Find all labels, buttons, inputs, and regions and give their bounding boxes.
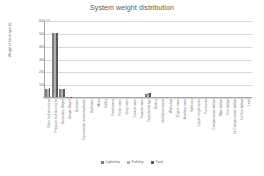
- x-axis-label-slot: Torpedo storage: [144, 99, 151, 155]
- bar-total[interactable]: [70, 97, 72, 98]
- x-axis-label-slot: Ventilation stores: [159, 99, 166, 155]
- x-axis-label-slot: Int Trim ballast: [238, 99, 245, 155]
- x-axis-label-slot: Pressure hull structures: [51, 99, 58, 155]
- bar-group[interactable]: [94, 21, 101, 97]
- x-axis-label-slot: Outer hull structures: [44, 99, 51, 155]
- x-axis-label-slot: Torpedo room: [137, 99, 144, 155]
- bar-group[interactable]: [130, 21, 137, 97]
- bar-total[interactable]: [63, 89, 65, 97]
- bar-group[interactable]: [116, 21, 123, 97]
- x-axis-label-slot: Secondary Object: [58, 99, 65, 155]
- bar-group[interactable]: [123, 21, 130, 97]
- x-axis-label-slot: Lead: [245, 99, 252, 155]
- x-axis-label-slot: Bathroom: [87, 99, 94, 155]
- x-axis-label-slot: Commander accommodation: [80, 99, 87, 155]
- chart-title: System weight distribution: [0, 4, 264, 11]
- x-axis-label-slot: Battery: [152, 99, 159, 155]
- bar-series-group: [44, 21, 252, 97]
- x-axis-label-slot: Workshop: [166, 99, 173, 155]
- x-axis-label-slot: Liquid weight tanks: [195, 99, 202, 155]
- y-axis-title: Weight of block type (t): [8, 9, 12, 71]
- bar-group[interactable]: [166, 21, 173, 97]
- legend-item[interactable]: Total: [151, 160, 163, 164]
- bar-group[interactable]: [202, 21, 209, 97]
- x-axis-label-slot: Main ballast: [216, 99, 223, 155]
- bar-group[interactable]: [187, 21, 194, 97]
- x-axis-label-slot: Engine room: [173, 99, 180, 155]
- bar-group[interactable]: [51, 21, 58, 97]
- x-axis-label-slot: Batteries: [187, 99, 194, 155]
- bar-group[interactable]: [144, 21, 151, 97]
- bar-group[interactable]: [66, 21, 73, 97]
- x-axis-label-slot: Grey water: [123, 99, 130, 155]
- x-axis-label-slot: Fuel tanks: [202, 99, 209, 155]
- bar-group[interactable]: [58, 21, 65, 97]
- x-axis-label-slot: Fresh water: [116, 99, 123, 155]
- bar-group[interactable]: [80, 21, 87, 97]
- bar-group[interactable]: [180, 21, 187, 97]
- bar-group[interactable]: [109, 21, 116, 97]
- x-axis-category-labels: Outer hull structuresPressure hull struc…: [44, 99, 252, 155]
- x-axis-label-slot: Galley: [101, 99, 108, 155]
- legend-swatch-icon: [101, 161, 104, 164]
- legend-label: Fullship: [131, 160, 143, 164]
- x-axis-label-slot: Trim ballast: [223, 99, 230, 155]
- legend-label: Total: [155, 160, 163, 164]
- x-axis-label-slot: Auxiliary room: [180, 99, 187, 155]
- legend-label: Lightship: [106, 160, 120, 164]
- chart-container: System weight distribution Weight of blo…: [0, 0, 264, 176]
- bar-group[interactable]: [230, 21, 237, 97]
- bar-total[interactable]: [56, 33, 58, 97]
- chart-legend: LightshipFullshipTotal: [0, 160, 264, 164]
- bar-total[interactable]: [149, 93, 151, 97]
- bar-group[interactable]: [245, 21, 252, 97]
- x-axis-tick-label: Lead: [248, 99, 251, 106]
- bar-group[interactable]: [209, 21, 216, 97]
- bar-total[interactable]: [49, 88, 51, 97]
- legend-swatch-icon: [127, 161, 130, 164]
- bar-group[interactable]: [137, 21, 144, 97]
- bar-group[interactable]: [195, 21, 202, 97]
- bar-group[interactable]: [223, 21, 230, 97]
- legend-swatch-icon: [151, 161, 154, 164]
- bar-group[interactable]: [73, 21, 80, 97]
- x-axis-label-slot: Simple Object: [66, 99, 73, 155]
- legend-item[interactable]: Lightship: [101, 160, 120, 164]
- plot-area: [44, 21, 252, 98]
- x-axis-label-slot: Compensation ballast: [209, 99, 216, 155]
- legend-item[interactable]: Fullship: [127, 160, 144, 164]
- x-axis-label-slot: Int Compensation ballast: [230, 99, 237, 155]
- bar-group[interactable]: [87, 21, 94, 97]
- x-axis-line: [44, 97, 252, 98]
- bar-group[interactable]: [173, 21, 180, 97]
- bar-group[interactable]: [101, 21, 108, 97]
- bar-group[interactable]: [216, 21, 223, 97]
- x-axis-label-slot: Bedroom: [73, 99, 80, 155]
- bar-group[interactable]: [238, 21, 245, 97]
- bar-group[interactable]: [159, 21, 166, 97]
- bar-group[interactable]: [44, 21, 51, 97]
- bar-group[interactable]: [152, 21, 159, 97]
- x-axis-label-slot: Mess: [94, 99, 101, 155]
- x-axis-label-slot: Control room: [130, 99, 137, 155]
- x-axis-label-slot: Food stores: [109, 99, 116, 155]
